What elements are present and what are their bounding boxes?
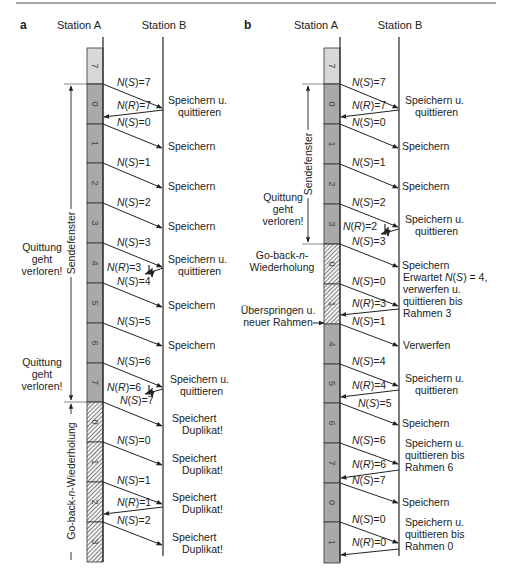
frame-buffer-column: 7012301456701: [324, 48, 340, 563]
send-seq-label: N(S)=0: [117, 434, 151, 446]
station-a-header: Station A: [294, 19, 339, 31]
frame-number: 3: [90, 220, 100, 225]
ack-label: N(R)=3: [107, 261, 141, 273]
side-note-text: Quittung: [263, 191, 303, 203]
i-frame-arrow: [340, 244, 398, 267]
side-note-text: Go-back-n-: [256, 249, 309, 261]
side-note-text: Quittung: [22, 241, 62, 253]
station-b-action-text: quittieren: [415, 225, 458, 237]
send-window-label: Sendefenster: [65, 211, 77, 274]
ack-label: N(R)=6: [107, 381, 141, 393]
frame-number: 5: [90, 300, 100, 305]
station-b-action-text: quittieren: [178, 265, 221, 277]
frame-number: 2: [327, 181, 337, 186]
frame-number: 4: [327, 341, 337, 346]
station-b-action-text: Speichert: [172, 412, 216, 424]
station-b-action-text: Speichern u.: [168, 94, 227, 106]
send-window-label: Sendefenster: [302, 132, 314, 195]
frame-number: 7: [327, 460, 337, 465]
frame-number: 0: [327, 261, 337, 266]
frame-number: 1: [327, 301, 337, 306]
frame-number: 2: [90, 499, 100, 504]
station-b-actions: Speichern u.quittierenSpeichernSpeichern…: [168, 94, 229, 555]
station-b-action-text: Speichern: [402, 140, 449, 152]
ack-label: N(R)=6: [352, 458, 386, 470]
station-b-action-text: Speichern: [402, 259, 449, 271]
send-seq-label: N(S)=4: [352, 355, 386, 367]
station-b-action-text: quittieren bis: [405, 449, 465, 461]
ack-label: N(R)=0: [352, 536, 386, 548]
go-back-n-label: Go-back-n-Wiederholung: [65, 422, 77, 539]
frame-number: 1: [90, 459, 100, 464]
diagram-canvas: aStation AStation B7012345670123Sendefen…: [0, 0, 507, 580]
panel-a: aStation AStation B7012345670123Sendefen…: [20, 18, 229, 562]
station-b-action-text: Speichern: [402, 180, 449, 192]
frame-number: 1: [327, 141, 337, 146]
station-b-action-text: Speichert: [172, 531, 216, 543]
station-b-action-text: quittieren: [415, 384, 458, 396]
frame-number: 0: [90, 101, 100, 106]
station-b-actions: Speichern u.quittierenSpeichernSpeichern…: [402, 94, 487, 552]
station-b-action-text: Duplikat!: [182, 464, 223, 476]
send-seq-label: N(S)=4: [117, 275, 151, 287]
station-b-action-text: Speichern u.: [405, 437, 464, 449]
station-b-action-text: quittieren: [178, 106, 221, 118]
i-frame-arrow: [340, 483, 398, 503]
panels: aStation AStation B7012345670123Sendefen…: [20, 18, 487, 563]
ack-arrow: [341, 390, 399, 397]
station-b-action-text: quittieren: [415, 106, 458, 118]
side-note-text: verloren!: [22, 265, 63, 277]
send-seq-label: N(S)=1: [117, 156, 151, 168]
frame-number: 2: [90, 180, 100, 185]
station-b-action-text: Speichern: [168, 180, 215, 192]
station-b-action-text: Duplikat!: [182, 503, 223, 515]
station-b-action-text: verwerfen u.: [403, 283, 461, 295]
station-b-header: Station B: [142, 19, 187, 31]
side-note-text: verloren!: [22, 380, 63, 392]
ack-label: N(R)=2: [343, 220, 377, 232]
station-b-action-text: Speichern: [168, 299, 215, 311]
send-window-bracket: Sendefenster: [302, 86, 314, 242]
frame-buffer-column: 7012345670123: [87, 48, 103, 562]
station-b-action-text: Speichern u.: [405, 516, 464, 528]
side-notes: Quittunggehtverloren!Go-back-n-Wiederhol…: [241, 191, 316, 328]
i-frame-arrow: [340, 324, 398, 346]
side-note-text: neuer Rahmen: [243, 316, 313, 328]
ack-label: N(R)=1: [117, 496, 151, 508]
send-seq-label: N(S)=2: [117, 196, 151, 208]
frame-number: 3: [90, 539, 100, 544]
station-b-action-text: Speichern: [402, 417, 449, 429]
station-b-action-text: Speichern u.: [168, 253, 227, 265]
station-a-header: Station A: [57, 19, 102, 31]
lost-ack-arrow: [145, 268, 163, 274]
frame-number: 6: [90, 340, 100, 345]
send-seq-label: N(S)=7: [352, 76, 386, 88]
send-seq-label: N(S)=0: [352, 116, 386, 128]
ack-label: N(R)=7: [352, 99, 386, 111]
send-seq-label: N(S)=2: [352, 196, 386, 208]
ack-label: N(R)=7: [117, 99, 151, 111]
frame-number: 0: [327, 500, 337, 505]
station-b-action-text: Speichert: [172, 452, 216, 464]
ack-label: N(R)=3: [352, 297, 386, 309]
station-b-action-text: Speichert: [172, 491, 216, 503]
send-seq-label: N(S)=0: [117, 116, 151, 128]
frame-number: 7: [90, 63, 100, 68]
station-b-action-text: Rahmen 6: [405, 461, 454, 473]
station-b-action-text: Rahmen 3: [403, 307, 452, 319]
station-b-action-text: quittieren bis: [403, 295, 463, 307]
send-seq-label: N(S)=3: [352, 235, 386, 247]
go-back-n-bracket: Go-back-n-Wiederholung: [65, 404, 77, 560]
send-seq-label: N(S)=1: [352, 315, 386, 327]
frame-number: 7: [327, 63, 337, 68]
frame-number: 1: [327, 540, 337, 545]
station-b-header: Station B: [378, 19, 423, 31]
frame-number: 3: [327, 221, 337, 226]
send-seq-label: N(S)=3: [117, 236, 151, 248]
station-b-action-text: Erwartet N(S) = 4,: [403, 271, 487, 283]
send-seq-label: N(S)=6: [117, 355, 151, 367]
station-b-action-text: Duplikat!: [182, 424, 223, 436]
frame-number: 6: [327, 420, 337, 425]
panel-label: a: [20, 18, 27, 32]
station-b-action-text: Verwerfen: [403, 339, 450, 351]
